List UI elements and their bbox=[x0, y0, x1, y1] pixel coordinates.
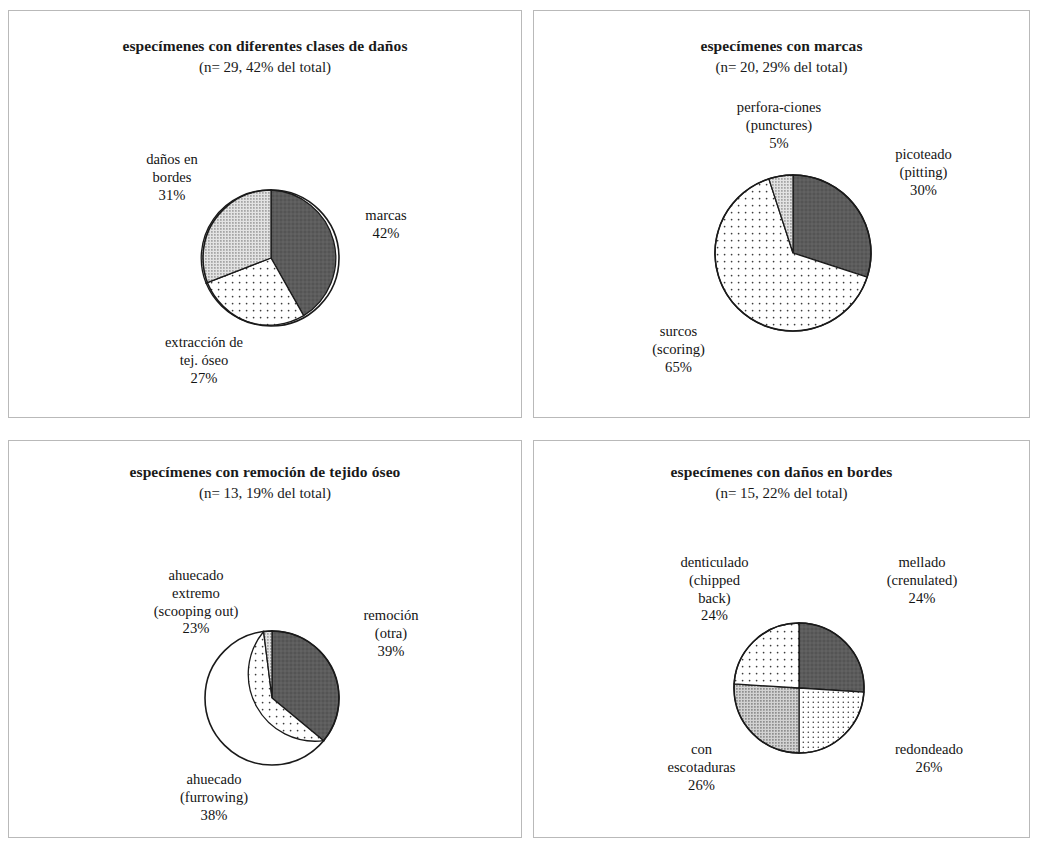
slice-label-picoteado: picoteado (pitting) 30% bbox=[861, 146, 986, 199]
pie-chart-edge-damage bbox=[727, 616, 871, 760]
slice-label-marcas: marcas 42% bbox=[331, 207, 441, 243]
panel-title: especímenes con daños en bordes bbox=[534, 463, 1029, 481]
panel-subtitle: (n= 29, 42% del total) bbox=[9, 59, 521, 77]
slice-label-denticulado: denticulado (chipped back) 24% bbox=[647, 554, 782, 625]
panel-title: especímenes con marcas bbox=[534, 37, 1029, 55]
panel-edge-damage: especímenes con daños en bordes (n= 15, … bbox=[533, 440, 1030, 838]
panel-title: especímenes con diferentes clases de dañ… bbox=[9, 37, 521, 55]
pie-slice-redondeado bbox=[799, 688, 864, 753]
panel-subtitle: (n= 13, 19% del total) bbox=[9, 485, 521, 503]
slice-label-ahuecado-extremo: ahuecado extremo (scooping out) 23% bbox=[106, 567, 286, 638]
figure-four-pie-charts: especímenes con diferentes clases de dañ… bbox=[0, 0, 1038, 845]
panel-damage-classes: especímenes con diferentes clases de dañ… bbox=[8, 10, 522, 418]
slice-label-ahuecado: ahuecado (furrowing) 38% bbox=[144, 771, 284, 824]
pie-slice-mellado bbox=[799, 623, 864, 692]
pie-slice-denticulado bbox=[734, 623, 799, 688]
slice-label-mellado: mellado (crenulated) 24% bbox=[852, 554, 992, 607]
slice-label-remocion-otra: remoción (otra) 39% bbox=[331, 607, 451, 660]
pie-chart-marks bbox=[709, 169, 877, 337]
pie-chart-bone-removal bbox=[198, 624, 346, 772]
slice-label-redondeado: redondeado 26% bbox=[864, 741, 994, 777]
slice-label-perforaciones: perfora-ciones (punctures) 5% bbox=[694, 99, 864, 152]
panel-subtitle: (n= 15, 22% del total) bbox=[534, 485, 1029, 503]
slice-label-danos-bordes: daños en bordes 31% bbox=[117, 151, 227, 204]
slice-label-surcos: surcos (scoring) 65% bbox=[616, 323, 741, 376]
slice-label-escotaduras: con escotaduras 26% bbox=[629, 741, 774, 794]
slice-label-extraccion: extracción de tej. óseo 27% bbox=[129, 334, 279, 387]
pie-chart-damage-classes bbox=[196, 183, 346, 333]
panel-marks: especímenes con marcas (n= 20, 29% del t… bbox=[533, 10, 1030, 418]
panel-title: especímenes con remoción de tejido óseo bbox=[9, 463, 521, 481]
panel-subtitle: (n= 20, 29% del total) bbox=[534, 59, 1029, 77]
panel-bone-removal: especímenes con remoción de tejido óseo … bbox=[8, 440, 522, 838]
